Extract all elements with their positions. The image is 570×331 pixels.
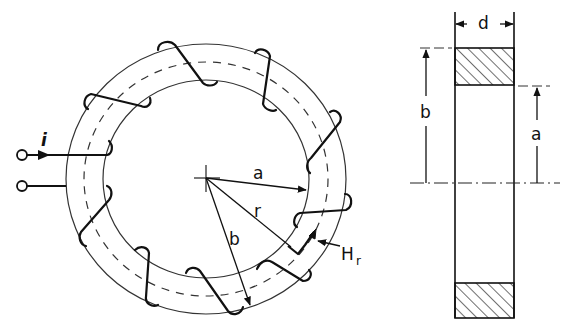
toroid-cross-section: d b a — [410, 12, 560, 318]
winding-turn — [84, 94, 150, 109]
label-H: H — [341, 244, 354, 264]
winding-turn — [257, 261, 311, 281]
section-bottom-hatch — [455, 283, 514, 318]
terminal-top — [17, 150, 27, 160]
label-r: r — [254, 201, 261, 221]
winding-turn — [158, 42, 217, 85]
label-current: i — [41, 130, 48, 150]
winding-turn — [80, 186, 112, 246]
current-arrow-icon — [38, 150, 50, 160]
label-H-subscript: r — [356, 254, 361, 268]
winding-turn — [307, 111, 341, 173]
diagram-canvas: i a r b H r — [0, 0, 570, 331]
winding-turn — [255, 49, 276, 110]
label-a: a — [253, 163, 263, 183]
label-a-section: a — [531, 124, 541, 144]
section-top-hatch — [455, 48, 514, 85]
input-leads: i — [17, 130, 107, 191]
radius-b-arrow — [206, 178, 250, 305]
radius-r-line — [206, 178, 291, 247]
field-leader-arrow — [318, 241, 340, 246]
winding-turn — [294, 194, 351, 227]
label-b-front: b — [229, 229, 240, 249]
toroid-front-view: i a r b H r — [17, 42, 361, 314]
label-b-section: b — [420, 102, 431, 122]
label-d: d — [478, 13, 489, 33]
terminal-bottom — [17, 181, 27, 191]
